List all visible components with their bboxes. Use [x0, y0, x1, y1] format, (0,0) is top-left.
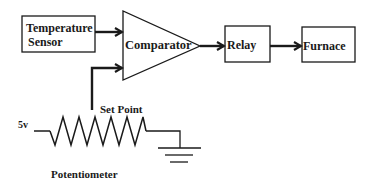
sensor-label-line2: Sensor [28, 35, 63, 49]
ground-lead [146, 131, 180, 148]
setpoint-label: Set Point [100, 103, 143, 115]
potentiometer-circuit: 5v Set Point Potentiometer [18, 103, 201, 180]
diagram-canvas: Temperature Sensor Comparator Relay Furn… [0, 0, 368, 187]
voltage-label: 5v [18, 119, 28, 130]
temperature-sensor-block: Temperature Sensor [22, 16, 95, 52]
furnace-label: Furnace [303, 39, 346, 53]
relay-block: Relay [225, 26, 270, 62]
ground-icon [158, 148, 201, 162]
resistor-zigzag [50, 117, 146, 145]
comparator-label: Comparator [125, 38, 192, 52]
comparator-block: Comparator [123, 11, 200, 80]
sensor-label-line1: Temperature [26, 21, 93, 35]
relay-label: Relay [227, 38, 256, 52]
furnace-block: Furnace [302, 27, 355, 62]
potentiometer-label: Potentiometer [51, 168, 118, 180]
